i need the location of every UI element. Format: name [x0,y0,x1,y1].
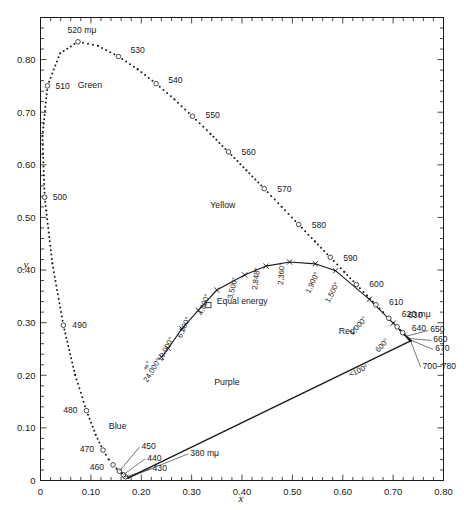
spectral-locus-dot [42,157,44,159]
spectral-locus-dot [349,277,351,279]
spectral-locus-dot [97,438,99,440]
spectral-locus-marker [262,186,267,191]
spectral-locus-dot [115,467,117,469]
spectral-locus-dot [54,280,56,282]
spectral-locus-dot [248,172,250,174]
spectral-locus-dot [43,166,45,168]
spectral-locus-dot [80,392,82,394]
spectral-locus-dot [98,441,100,443]
spectral-locus-dot [212,136,214,138]
wavelength-label-520: 520 mμ [68,25,97,35]
spectral-locus-dot [239,163,241,165]
spectral-locus-dot [320,247,322,249]
spectral-locus-dot [93,430,95,432]
spectral-locus-dot [53,271,55,273]
spectral-locus-dot [54,64,56,66]
top-axis-minor-ticks [41,18,444,24]
wavelength-label-650: 650 [430,324,445,334]
spectral-locus-dot [63,328,65,330]
spectral-locus-dot [41,135,43,137]
spectral-locus-dot [352,280,354,282]
spectral-locus-marker [61,323,66,328]
spectral-locus-dot [92,44,94,46]
spectral-locus-dot [58,302,60,304]
spectral-locus-dot [59,307,61,309]
spectral-locus-dot [311,237,313,239]
spectral-locus-dot [382,311,384,313]
spectral-locus-dot [257,182,259,184]
spectral-locus-dot [44,114,46,116]
spectral-locus-dot [82,42,84,44]
spectral-locus-dot [162,89,164,91]
spectral-locus-dot [73,43,75,45]
spectral-locus-marker [374,302,379,307]
spectral-locus-dot [42,161,44,163]
spectral-locus-dot [43,179,45,181]
spectral-locus-dot [61,315,63,317]
spectral-locus-dot [42,148,44,150]
y-tick-label: 0.30 [17,317,36,328]
wavelength-label-460: 460 [90,462,105,472]
leader-line [119,447,139,471]
purple-line-segment [128,341,410,478]
spectral-locus-dot [50,254,52,256]
right-axis-minor-ticks [438,18,444,481]
spectral-locus-dot [277,202,279,204]
spectral-locus-dot [55,284,57,286]
spectral-locus-dot [42,144,44,146]
wavelength-label-490: 490 [72,320,87,330]
spectral-locus-dot [108,458,110,460]
spectral-locus-dot [215,139,217,141]
region-label-blue: Blue [109,421,127,431]
spectral-locus-dot [181,105,183,107]
temperature-label: 1,500° [323,280,341,304]
spectral-locus-marker [296,222,301,227]
spectral-locus-dot [44,106,46,108]
spectral-locus-dot [65,337,67,339]
spectral-locus-dot [60,311,62,313]
spectral-locus-dot [218,142,220,144]
spectral-locus-dot [173,98,175,100]
spectral-locus-dot [56,60,58,62]
spectral-locus-dot [224,148,226,150]
spectral-locus-marker [354,282,359,287]
spectral-locus-dot [260,185,262,187]
spectral-locus-marker [190,114,195,119]
spectral-locus-dot [199,122,201,124]
spectral-locus-marker [45,83,50,88]
spectral-locus-dot [100,445,102,447]
spectral-locus-dot [77,383,79,385]
spectral-locus-dot [236,160,238,162]
spectral-locus-dot [83,401,85,403]
y-tick-label: 0.20 [17,370,36,381]
spectral-locus-dot [66,341,68,343]
temperature-label: 6,500° [175,315,192,339]
x-tick-label: 0.80 [434,486,453,497]
wavelength-labels: 520 mμ530540550560570580590600610620 mμ6… [53,25,457,473]
chromaticity-diagram-figure: 00.100.200.300.400.500.600.700.80 00.100… [0,0,464,510]
wavelength-label-480: 480 [63,405,78,415]
x-axis-title: x [238,492,244,504]
x-tick-label: 0 [38,486,43,497]
spectral-locus-dot [148,77,150,79]
spectral-locus-dot [267,191,269,193]
wavelength-label-670: 670 [435,343,450,353]
spectral-locus-dot [76,378,78,380]
spectral-locus-dot [49,240,51,242]
spectral-locus-dot [359,287,361,289]
spectral-locus-dot [46,93,48,95]
wavelength-label-430: 430 [153,463,168,473]
spectral-locus-dot [73,370,75,372]
spectral-locus-dot [87,43,89,45]
spectral-locus-dot [50,77,52,79]
y-tick-label: 0.60 [17,159,36,170]
spectral-locus-dot [326,253,328,255]
spectral-locus-dot [43,183,45,185]
spectral-locus-dot [159,86,161,88]
wavelength-label-560: 560 [241,147,256,157]
spectral-locus-dot [72,366,74,368]
wavelength-label-440: 440 [147,453,162,463]
spectral-locus-dot [66,48,68,50]
spectral-locus-marker [42,195,47,200]
spectral-locus-dot [64,333,66,335]
